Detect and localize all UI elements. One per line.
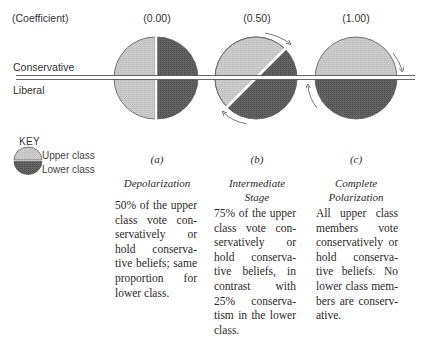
rotation-arrow-left xyxy=(308,86,317,108)
case-title-b: Intermediate Stage xyxy=(207,176,307,204)
conservative-liberal-divider xyxy=(16,76,415,80)
key-lower-class-label: Lower class xyxy=(42,164,95,175)
case-title-b-line2: Stage xyxy=(207,190,307,204)
case-title-c: Complete Polarization xyxy=(306,176,406,204)
description-b: 75% of the upper class vote con-servativ… xyxy=(214,206,296,337)
case-letter-b: (b) xyxy=(227,153,287,165)
pie-c-upper-slice xyxy=(315,37,397,78)
key-pie xyxy=(14,147,42,175)
case-title-a-line1: Depolarization xyxy=(107,176,207,190)
case-title-c-line2: Polarization xyxy=(306,190,406,204)
case-title-a: Depolarization xyxy=(107,176,207,190)
description-a: 50% of the upper class vote con-servativ… xyxy=(115,198,197,300)
key-title: KEY xyxy=(19,136,40,147)
case-title-b-line1: Intermediate xyxy=(207,176,307,190)
case-title-c-line1: Complete xyxy=(306,176,406,190)
description-c: All upper class members vote conservativ… xyxy=(316,206,398,323)
key-upper-class-label: Upper class xyxy=(42,150,95,161)
case-letter-a: (a) xyxy=(127,153,187,165)
pie-c-lower-slice xyxy=(315,78,397,119)
case-letter-c: (c) xyxy=(326,153,386,165)
